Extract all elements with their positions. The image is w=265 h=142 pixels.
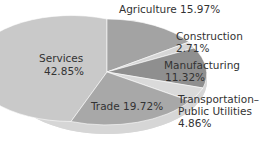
pie-chart bbox=[0, 0, 265, 142]
label-construction-name: Construction bbox=[176, 31, 243, 42]
label-transport-pct: 4.86% bbox=[178, 118, 211, 129]
label-manufacturing-name: Manufacturing bbox=[164, 60, 240, 71]
label-services-pct: 42.85% bbox=[44, 66, 84, 77]
label-transport-line2: Public Utilities bbox=[178, 106, 252, 117]
label-manufacturing-pct: 11.32% bbox=[165, 72, 205, 83]
label-transport-line1: Transportation– bbox=[178, 94, 259, 105]
label-construction-pct: 2.71% bbox=[176, 43, 209, 54]
label-services-name: Services bbox=[39, 53, 83, 64]
label-agriculture: Agriculture 15.97% bbox=[119, 4, 220, 15]
label-trade: Trade 19.72% bbox=[91, 101, 163, 112]
